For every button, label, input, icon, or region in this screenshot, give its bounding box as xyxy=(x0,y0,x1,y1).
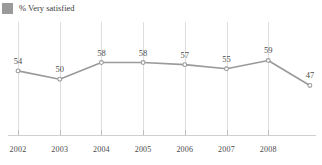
legend-item-label: % Very satisfied xyxy=(19,3,75,14)
line-chart: 5450585857555947 20022003200420052006200… xyxy=(0,0,322,165)
tick-label-2003: 2003 xyxy=(51,145,68,154)
data-label: 55 xyxy=(222,55,231,64)
tick-label-2004: 2004 xyxy=(93,145,110,154)
data-point-marker xyxy=(308,84,312,88)
chart-legend: % Very satisfied xyxy=(2,2,75,14)
axis-ticks xyxy=(19,130,269,135)
tick-label-2008: 2008 xyxy=(260,145,277,154)
chart-canvas xyxy=(0,0,322,165)
data-label: 47 xyxy=(306,71,315,80)
data-point-marker xyxy=(16,69,20,73)
data-point-marker xyxy=(100,61,104,65)
data-point-marker xyxy=(225,67,229,71)
data-point-marker xyxy=(58,77,62,81)
data-label: 50 xyxy=(55,65,64,74)
data-label: 58 xyxy=(139,49,148,58)
tick-label-2006: 2006 xyxy=(176,145,193,154)
tick-label-2005: 2005 xyxy=(135,145,152,154)
data-point-marker xyxy=(141,61,145,65)
data-label: 54 xyxy=(14,57,23,66)
tick-label-2002: 2002 xyxy=(10,145,27,154)
data-label: 59 xyxy=(264,46,273,55)
data-label: 58 xyxy=(97,49,106,58)
data-point-marker xyxy=(183,63,187,67)
data-label: 57 xyxy=(181,51,190,60)
tick-label-2007: 2007 xyxy=(218,145,235,154)
data-point-marker xyxy=(266,59,270,63)
square-swatch-icon xyxy=(2,3,13,14)
